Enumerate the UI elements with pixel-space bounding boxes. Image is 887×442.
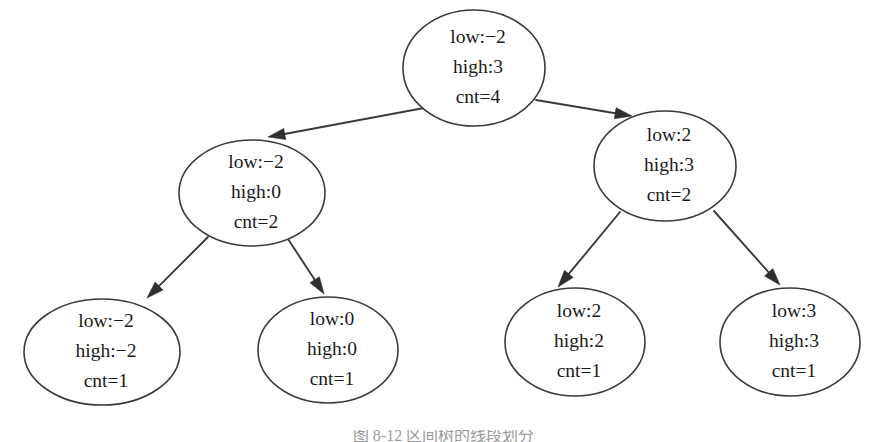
tree-node-right-mid[interactable]: low:2high:3cnt=2 (594, 111, 736, 221)
arrowhead-icon (268, 128, 286, 139)
node-leaf-1-high-label: high:−2 (76, 340, 137, 361)
arrowhead-icon (310, 277, 324, 294)
node-root-low-label: low:−2 (450, 26, 505, 47)
tree-node-leaf-4[interactable]: low:3high:3cnt=1 (720, 288, 860, 396)
node-leaf-1-cnt-label: cnt=1 (84, 370, 129, 391)
node-left-mid-low-label: low:−2 (228, 151, 283, 172)
tree-node-leaf-3[interactable]: low:2high:2cnt=1 (505, 288, 645, 396)
node-leaf-4-low-label: low:3 (772, 300, 816, 321)
tree-node-root[interactable]: low:−2high:3cnt=4 (403, 10, 545, 126)
tree-edge-left-mid-to-leaf-2 (288, 239, 316, 282)
binary-tree-diagram: low:−2high:3cnt=4low:−2high:0cnt=2low:2h… (0, 0, 887, 442)
tree-edge-left-mid-to-leaf-1 (157, 237, 208, 288)
node-leaf-4-cnt-label: cnt=1 (772, 360, 817, 381)
node-right-mid-cnt-label: cnt=2 (647, 184, 692, 205)
node-leaf-3-low-label: low:2 (557, 300, 601, 321)
node-leaf-3-cnt-label: cnt=1 (557, 360, 602, 381)
node-leaf-2-high-label: high:0 (307, 338, 357, 359)
node-leaf-2-cnt-label: cnt=1 (310, 368, 355, 389)
node-left-mid-cnt-label: cnt=2 (234, 211, 279, 232)
node-leaf-2-low-label: low:0 (310, 308, 354, 329)
tree-edge-right-mid-to-leaf-3 (567, 212, 620, 276)
figure-caption: 图 8-12 区间树的线段划分 (0, 430, 887, 442)
node-right-mid-low-label: low:2 (647, 124, 691, 145)
node-root-cnt-label: cnt=4 (456, 86, 501, 107)
tree-edge-right-mid-to-leaf-4 (714, 211, 771, 275)
node-leaf-4-high-label: high:3 (769, 330, 819, 351)
tree-edge-root-to-right-mid (536, 100, 618, 114)
tree-node-leaf-2[interactable]: low:0high:0cnt=1 (258, 297, 398, 403)
node-leaf-3-high-label: high:2 (554, 330, 604, 351)
figure-caption-clip: 图 8-12 区间树的线段划分 (0, 430, 887, 442)
node-root-high-label: high:3 (453, 56, 503, 77)
arrowhead-icon (614, 108, 632, 119)
tree-node-left-mid[interactable]: low:−2high:0cnt=2 (179, 140, 325, 246)
tree-node-leaf-1[interactable]: low:−2high:−2cnt=1 (24, 299, 180, 405)
tree-edge-root-to-left-mid (282, 108, 424, 134)
figure-canvas: low:−2high:3cnt=4low:−2high:0cnt=2low:2h… (0, 0, 887, 442)
node-group: low:−2high:3cnt=4low:−2high:0cnt=2low:2h… (24, 10, 860, 405)
node-leaf-1-low-label: low:−2 (78, 310, 133, 331)
node-left-mid-high-label: high:0 (231, 181, 281, 202)
node-right-mid-high-label: high:3 (644, 154, 694, 175)
